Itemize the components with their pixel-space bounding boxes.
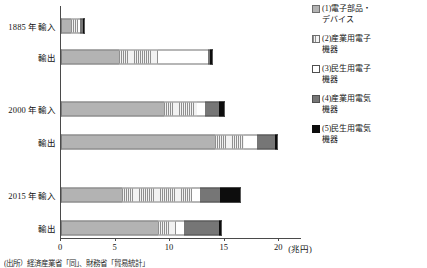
legend-label: (5)民生用電気 機器 xyxy=(322,124,371,145)
x-axis-tick-label: 20 xyxy=(274,242,283,252)
category-label: 輸出 xyxy=(38,136,56,148)
category-label: 2000 年輸入 xyxy=(8,103,56,115)
legend-label: (3)民生用電子 機器 xyxy=(322,64,371,85)
bar-segment xyxy=(61,50,119,65)
bar-segment xyxy=(210,50,213,65)
bar-segment xyxy=(215,135,244,150)
legend-item: (4)産業用電気 機器 xyxy=(312,94,424,115)
bar-segment xyxy=(164,102,198,117)
legend-label: (1)電子部品・ デバイス xyxy=(322,4,371,25)
bar-segment xyxy=(61,135,215,150)
bar-segment xyxy=(244,135,257,150)
x-axis-tick xyxy=(278,238,279,241)
bar-segment xyxy=(200,188,221,203)
x-axis-tick-label: 0 xyxy=(58,242,62,252)
x-axis-tick xyxy=(60,238,61,241)
legend-item: (1)電子部品・ デバイス xyxy=(312,4,424,25)
legend-label: (4)産業用電気 機器 xyxy=(322,94,371,115)
legend-item: (3)民生用電子 機器 xyxy=(312,64,424,85)
legend-swatch-striped xyxy=(312,35,320,43)
bar-segment xyxy=(158,221,175,236)
bar-segment xyxy=(176,221,185,236)
chart-legend: (1)電子部品・ デバイス(2)産業用電子 機器(3)民生用電子 機器(4)産業… xyxy=(312,4,424,154)
bar-segment xyxy=(61,19,71,34)
x-axis-tick-label: 5 xyxy=(112,242,116,252)
x-axis-tick-label: 10 xyxy=(165,242,174,252)
chart-row: 輸出 xyxy=(61,209,301,247)
category-label: 輸出 xyxy=(38,222,56,234)
legend-item: (5)民生用電気 機器 xyxy=(312,124,424,145)
x-axis-tick xyxy=(169,238,170,241)
bar-segment xyxy=(119,50,158,65)
plot-area: 1885 年輸入輸出2000 年輸入輸出2015 年輸入輸出05101520(兆… xyxy=(60,6,300,238)
category-label: 1885 年輸入 xyxy=(8,20,56,32)
bar-segment xyxy=(275,135,278,150)
bar-segment xyxy=(205,102,219,117)
stacked-bar xyxy=(61,102,225,117)
legend-label: (2)産業用電子 機器 xyxy=(322,34,371,55)
x-axis-tick xyxy=(115,238,116,241)
bar-segment xyxy=(184,221,219,236)
bar-segment xyxy=(192,188,200,203)
bar-segment xyxy=(158,50,208,65)
bar-segment xyxy=(61,102,164,117)
x-axis-tick xyxy=(224,238,225,241)
bar-segment xyxy=(219,221,222,236)
chart-row: 輸出 xyxy=(61,123,301,161)
bar-segment xyxy=(197,102,205,117)
source-note: (出所）経済産業省「同」、財務省「貿易統計」 xyxy=(4,257,427,268)
bar-segment xyxy=(71,19,79,34)
bar-segment xyxy=(61,221,158,236)
bar-segment xyxy=(122,188,192,203)
stacked-bar xyxy=(61,19,85,34)
x-axis-tick-label: 15 xyxy=(219,242,228,252)
legend-swatch-white xyxy=(312,65,320,73)
bar-segment xyxy=(61,188,122,203)
category-label: 輸出 xyxy=(38,51,56,63)
category-label: 2015 年輸入 xyxy=(8,189,56,201)
bar-segment xyxy=(219,102,224,117)
bar-segment xyxy=(257,135,274,150)
legend-item: (2)産業用電子 機器 xyxy=(312,34,424,55)
legend-swatch-black xyxy=(312,125,320,133)
stacked-bar xyxy=(61,135,278,150)
stacked-bar xyxy=(61,188,241,203)
x-axis-unit-label: (兆円) xyxy=(288,242,312,254)
legend-swatch-dark-gray xyxy=(312,95,320,103)
chart-row: 輸出 xyxy=(61,38,301,76)
stacked-bar xyxy=(61,50,213,65)
bar-segment xyxy=(220,188,241,203)
stacked-bar xyxy=(61,221,222,236)
legend-swatch-solid-gray xyxy=(312,5,320,13)
bar-segment xyxy=(83,19,85,34)
